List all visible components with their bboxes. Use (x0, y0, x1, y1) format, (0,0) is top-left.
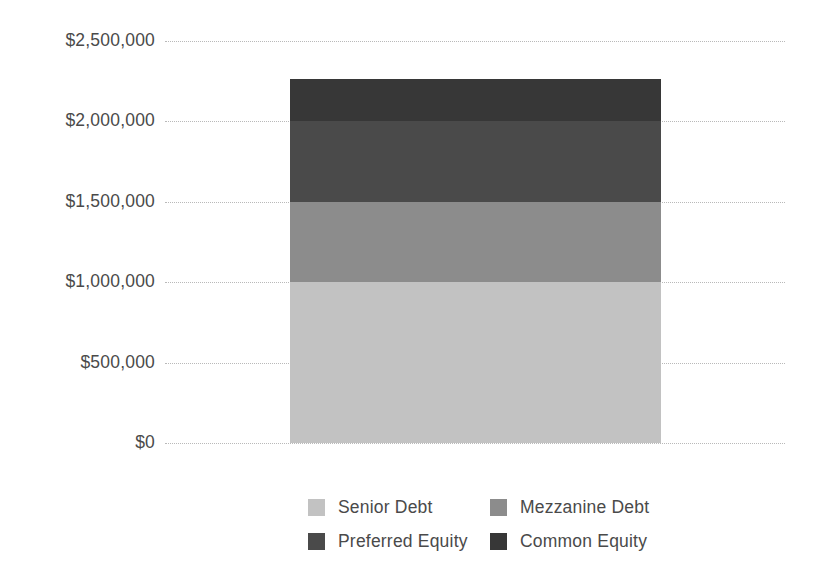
y-axis-tick-label: $0 (5, 432, 155, 453)
bar-segment-senior-debt[interactable] (290, 282, 661, 443)
bar-segment-common-equity[interactable] (290, 79, 661, 122)
legend-swatch-icon (308, 533, 325, 550)
legend-item-label: Common Equity (520, 531, 647, 552)
y-axis-tick-label: $1,000,000 (5, 271, 155, 292)
chart-legend: Senior DebtMezzanine DebtPreferred Equit… (0, 486, 816, 576)
legend-item-label: Preferred Equity (338, 531, 468, 552)
legend-item[interactable]: Common Equity (490, 529, 647, 553)
y-axis-tick-label: $2,500,000 (5, 30, 155, 51)
y-axis-tick-label: $1,500,000 (5, 191, 155, 212)
gridline (165, 41, 785, 42)
gridline (165, 443, 785, 444)
plot-area: $2,500,000$2,000,000$1,500,000$1,000,000… (0, 0, 816, 470)
legend-item[interactable]: Mezzanine Debt (490, 495, 649, 519)
legend-item[interactable]: Senior Debt (308, 495, 433, 519)
bar-segment-preferred-equity[interactable] (290, 121, 661, 201)
stacked-bar-chart: $2,500,000$2,000,000$1,500,000$1,000,000… (0, 0, 816, 588)
legend-swatch-icon (490, 533, 507, 550)
y-axis-tick-label: $500,000 (5, 352, 155, 373)
legend-swatch-icon (490, 499, 507, 516)
legend-item-label: Mezzanine Debt (520, 497, 649, 518)
bar-segment-mezzanine-debt[interactable] (290, 202, 661, 282)
y-axis-tick-label: $2,000,000 (5, 110, 155, 131)
legend-item-label: Senior Debt (338, 497, 433, 518)
legend-item[interactable]: Preferred Equity (308, 529, 468, 553)
legend-swatch-icon (308, 499, 325, 516)
